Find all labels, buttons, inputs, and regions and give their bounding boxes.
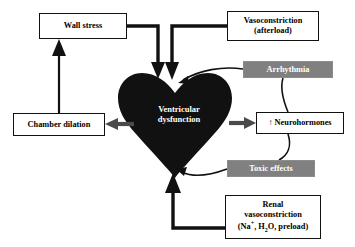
- edge-chamber-dilation-to-wall-stress: [52, 39, 66, 113]
- node-vasoconstriction[interactable]: Vasoconstriction (afterload): [227, 11, 319, 41]
- diagram-canvas: Wall stress Vasoconstriction (afterload)…: [0, 0, 355, 247]
- node-renal-line2: vasoconstriction: [244, 210, 302, 219]
- node-renal-vasoconstriction[interactable]: Renal vasoconstriction (Na+, H2O, preloa…: [225, 195, 321, 239]
- edge-vasoconstriction-to-heart: [165, 26, 227, 80]
- node-toxic-effects[interactable]: Toxic effects: [227, 160, 315, 177]
- edge-wall-stress-to-heart: [127, 26, 165, 79]
- node-arrhythmia[interactable]: Arrhythmia: [243, 61, 333, 78]
- node-renal-line1: Renal: [263, 200, 284, 209]
- node-arrhythmia-label: Arrhythmia: [267, 65, 310, 75]
- node-chamber-dilation-label: Chamber dilation: [28, 120, 91, 130]
- edge-renal-to-heart: [165, 173, 225, 228]
- node-wall-stress[interactable]: Wall stress: [39, 13, 127, 39]
- node-vasoconstriction-line1: Vasoconstriction: [244, 16, 303, 25]
- heart-shape: [118, 73, 232, 178]
- edge-toxic-effects-to-heart: [176, 167, 227, 176]
- node-vasoconstriction-label: Vasoconstriction (afterload): [244, 16, 303, 36]
- node-renal-line3: (Na+, H2O, preload): [238, 222, 308, 231]
- node-neurohormones[interactable]: ↑ Neurohormones: [256, 112, 344, 134]
- node-wall-stress-label: Wall stress: [64, 21, 102, 31]
- node-chamber-dilation[interactable]: Chamber dilation: [13, 113, 105, 136]
- node-toxic-effects-label: Toxic effects: [249, 164, 293, 174]
- edge-neurohormones-to-toxic-effects: [279, 134, 290, 160]
- edge-heart-to-neurohormones: [229, 117, 256, 129]
- edge-neurohormones-to-arrhythmia: [282, 78, 288, 112]
- node-renal-label: Renal vasoconstriction (Na+, H2O, preloa…: [238, 200, 308, 233]
- node-neurohormones-label: ↑ Neurohormones: [268, 118, 331, 128]
- node-renal-line3-prefix: (Na: [238, 222, 251, 231]
- node-renal-line3-mid: , H: [254, 222, 265, 231]
- node-vasoconstriction-line2: (afterload): [254, 26, 292, 35]
- node-renal-line3-suffix: O, preload): [268, 222, 308, 231]
